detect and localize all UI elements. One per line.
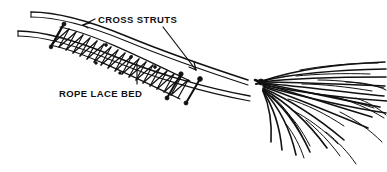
callout-leader-cross-struts-right — [163, 27, 196, 70]
label-rope-lace-bed: ROPE LACE BED — [59, 88, 142, 99]
brush-drag-illustration: CROSS STRUTS ROPE LACE BED — [0, 0, 387, 172]
label-cross-struts: CROSS STRUTS — [98, 14, 177, 25]
brush-drag-figure: CROSS STRUTS ROPE LACE BED — [0, 0, 387, 172]
brush-bundle — [262, 62, 387, 155]
